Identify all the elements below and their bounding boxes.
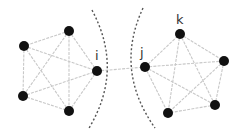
label-j: j (139, 45, 144, 60)
node-j (140, 62, 150, 72)
node (210, 100, 220, 110)
node-k (175, 29, 185, 39)
node (64, 26, 74, 36)
label-k: k (176, 12, 184, 27)
node (163, 108, 173, 118)
label-i: i (95, 48, 99, 63)
node (219, 56, 229, 66)
node (64, 106, 74, 116)
node (18, 91, 28, 101)
left-cluster-nodes (18, 26, 102, 116)
node (19, 41, 29, 51)
bridge-edge-i-j (97, 67, 145, 71)
left-cluster-edges (23, 31, 97, 111)
node-i (92, 66, 102, 76)
graph-diagram: i j k (0, 0, 240, 133)
